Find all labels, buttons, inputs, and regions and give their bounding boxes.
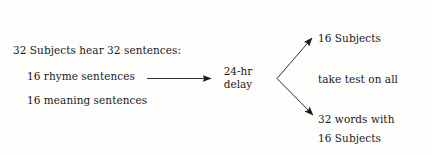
- branch-arrow-lower: [277, 79, 313, 116]
- delay-node-line-1: 24-hr: [213, 65, 263, 78]
- branch-arrow-upper: [277, 38, 312, 79]
- delay-node-line-2: delay: [213, 78, 263, 91]
- condition-rhyme-label: 16 rhyme sentences: [27, 70, 135, 84]
- study-heading-label: 32 Subjects hear 32 sentences:: [13, 44, 181, 58]
- outcome-rhyming-line-1: 16 Subjects: [318, 32, 398, 46]
- experiment-flow-diagram: 32 Subjects hear 32 sentences: 16 rhyme …: [0, 0, 432, 155]
- outcome-standard-line-1: 16 Subjects: [318, 132, 404, 146]
- delay-node: 24-hr delay: [213, 65, 263, 91]
- outcome-rhyming-line-2: take test on all: [318, 73, 398, 87]
- condition-meaning-label: 16 meaning sentences: [27, 94, 147, 108]
- outcome-standard-group: 16 Subjects take standard recognition te…: [318, 105, 404, 155]
